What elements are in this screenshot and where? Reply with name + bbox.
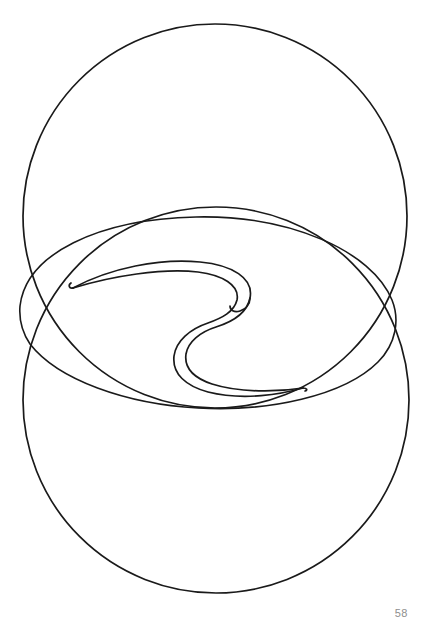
- drawing-page: 58: [0, 0, 427, 633]
- page-number: 58: [395, 607, 408, 619]
- line-drawing-artwork: [0, 0, 427, 633]
